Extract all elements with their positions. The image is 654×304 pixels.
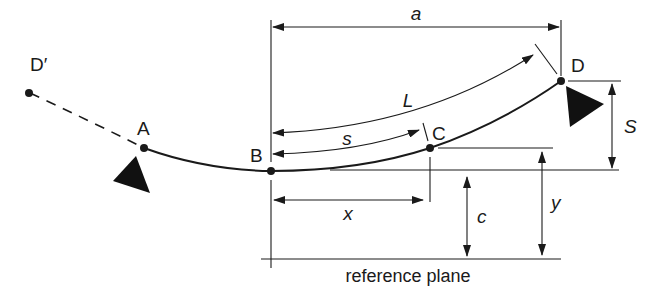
arc-L-end-tick <box>535 44 557 74</box>
point-d-label: D <box>571 55 585 76</box>
point-b <box>267 167 275 175</box>
point-d <box>557 77 565 85</box>
dimension-c-label: c <box>477 206 487 227</box>
dimension-s-label: s <box>342 128 352 149</box>
point-c-label: C <box>432 123 446 144</box>
point-b-label: B <box>250 145 263 166</box>
dimension-y-label: y <box>549 192 562 213</box>
arc-s-end-tick <box>423 123 428 141</box>
point-a <box>140 144 148 152</box>
dimension-S-label: S <box>624 116 637 137</box>
reference-plane-label: reference plane <box>345 266 470 286</box>
point-d-prime-label: D′ <box>30 54 48 75</box>
point-a-label: A <box>137 118 150 139</box>
beam-curve <box>144 81 561 171</box>
support-d-triangle-icon <box>566 86 604 127</box>
beam-deflection-diagram: a L s S x c y reference plane D′ A B C D <box>0 0 654 304</box>
dimension-L-label: L <box>403 90 414 111</box>
dashed-extension-curve <box>30 93 142 147</box>
dimension-a-label: a <box>411 3 422 24</box>
dimension-x-label: x <box>342 203 354 224</box>
point-c <box>426 144 434 152</box>
point-d-prime <box>25 89 33 97</box>
support-a-triangle-icon <box>113 156 150 193</box>
